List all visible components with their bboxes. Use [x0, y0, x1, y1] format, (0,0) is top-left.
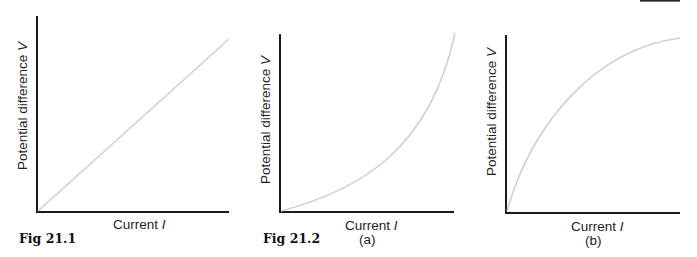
- figure-caption: Fig 21.2: [263, 231, 320, 246]
- top-right-bar: [640, 0, 680, 2]
- x-axis-label: Current I: [345, 218, 398, 233]
- sub-label-b: (b): [585, 233, 602, 248]
- x-axis-label: Current I: [113, 217, 166, 232]
- chart-fig-21-2b: Potential difference V Current I (b): [484, 35, 680, 248]
- y-axis-label: Potential difference V: [15, 40, 30, 170]
- x-axis-label: Current I: [571, 219, 624, 234]
- data-curve: [507, 38, 680, 211]
- sub-label-a: (a): [359, 232, 376, 247]
- y-axis-label: Potential difference V: [484, 46, 499, 176]
- figure-canvas: Potential difference V Current I Fig 21.…: [0, 0, 697, 257]
- data-line: [38, 39, 229, 211]
- figure-caption: Fig 21.1: [19, 231, 76, 246]
- chart-fig-21-1: Potential difference V Current I Fig 21.…: [15, 16, 229, 246]
- chart-fig-21-2a: Potential difference V Current I (a) Fig…: [258, 33, 455, 247]
- data-curve: [281, 33, 455, 211]
- y-axis-label: Potential difference V: [258, 54, 273, 184]
